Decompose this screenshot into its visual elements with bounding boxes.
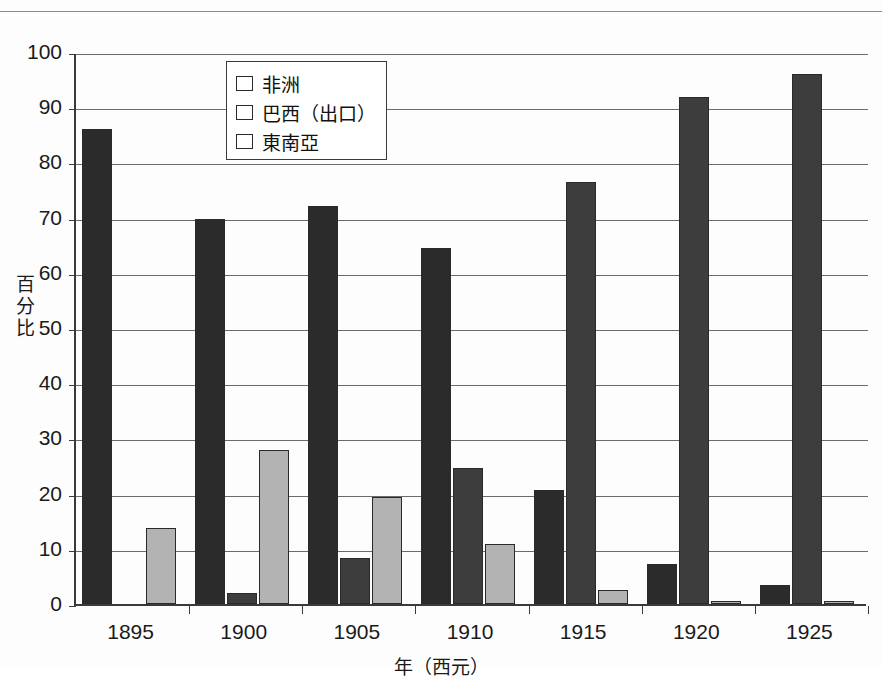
gridline (76, 54, 868, 55)
y-axis-tick-label: 50 (0, 316, 62, 340)
x-axis-tick (302, 606, 303, 614)
legend-label-1: 巴西（出口） (262, 99, 376, 126)
x-axis-tick-label: 1925 (759, 620, 859, 644)
bar-巴西（出口）-1905 (372, 497, 402, 604)
x-axis-tick-label: 1895 (81, 620, 181, 644)
y-axis-tick (69, 385, 76, 386)
x-axis-tick (755, 606, 756, 614)
bar-chart: 百 分 比 0102030405060708090100 18951900190… (0, 16, 882, 656)
bar-非洲-1900 (195, 219, 225, 604)
legend-item: 東南亞 (236, 127, 386, 156)
y-axis-tick-label: 100 (0, 40, 62, 64)
y-axis-tick (69, 551, 76, 552)
gridline (76, 109, 868, 110)
legend-label-0: 非洲 (262, 70, 300, 97)
y-axis-tick-label: 10 (0, 537, 62, 561)
y-axis-tick (69, 275, 76, 276)
bar-巴西（出口）-1915 (598, 590, 628, 604)
x-axis-tick-label: 1900 (194, 620, 294, 644)
bar-非洲-1910 (421, 248, 451, 604)
y-axis-tick (69, 440, 76, 441)
x-axis-title: 年（西元） (0, 652, 882, 679)
y-axis-title-char-1: 分 (14, 296, 36, 318)
y-axis-tick-label: 40 (0, 371, 62, 395)
bar-東南亞-1920 (679, 97, 709, 604)
legend-swatch-icon-0 (236, 76, 253, 91)
x-axis-tick (189, 606, 190, 614)
x-axis-tick-label: 1910 (420, 620, 520, 644)
bar-東南亞-1915 (566, 182, 596, 604)
bar-非洲-1920 (647, 564, 677, 604)
gridline (76, 164, 868, 165)
x-axis-tick-label: 1905 (307, 620, 407, 644)
bar-東南亞-1910 (453, 468, 483, 604)
chart-legend: 非洲 巴西（出口） 東南亞 (226, 61, 387, 160)
bar-巴西（出口）-1910 (485, 544, 515, 604)
y-axis-tick-label: 90 (0, 95, 62, 119)
y-axis-tick (69, 606, 76, 607)
x-axis-tick (642, 606, 643, 614)
cropped-caption-text (120, 0, 460, 6)
y-axis-tick (69, 220, 76, 221)
bar-巴西（出口）-1920 (711, 601, 741, 604)
legend-item: 巴西（出口） (236, 98, 386, 127)
y-axis-tick (69, 164, 76, 165)
legend-swatch-icon-1 (236, 105, 253, 120)
y-axis-tick-label: 0 (0, 592, 62, 616)
bar-非洲-1895 (82, 129, 112, 604)
page-top-rule (0, 11, 882, 12)
bar-非洲-1925 (760, 585, 790, 604)
x-axis-tick-label: 1915 (533, 620, 633, 644)
y-axis-tick-label: 30 (0, 426, 62, 450)
y-axis-tick (69, 54, 76, 55)
y-axis-tick-label: 70 (0, 206, 62, 230)
bar-巴西（出口）-1895 (146, 528, 176, 604)
bar-東南亞-1905 (340, 558, 370, 604)
y-axis-tick (69, 109, 76, 110)
x-axis-tick (529, 606, 530, 614)
y-axis-tick (69, 496, 76, 497)
x-axis-tick (868, 606, 869, 614)
y-axis-tick-label: 20 (0, 482, 62, 506)
legend-item: 非洲 (236, 69, 386, 98)
bar-東南亞-1925 (792, 74, 822, 604)
y-axis-tick-label: 80 (0, 150, 62, 174)
plot-area (74, 54, 866, 606)
x-axis-tick-label: 1920 (646, 620, 746, 644)
bar-巴西（出口）-1900 (259, 450, 289, 604)
legend-swatch-icon-2 (236, 134, 253, 149)
x-axis-tick (415, 606, 416, 614)
y-axis-tick-label: 60 (0, 261, 62, 285)
bar-巴西（出口）-1925 (824, 601, 854, 604)
bar-非洲-1915 (534, 490, 564, 604)
bar-東南亞-1900 (227, 593, 257, 604)
y-axis-tick (69, 330, 76, 331)
bar-非洲-1905 (308, 206, 338, 604)
legend-label-2: 東南亞 (262, 128, 319, 155)
